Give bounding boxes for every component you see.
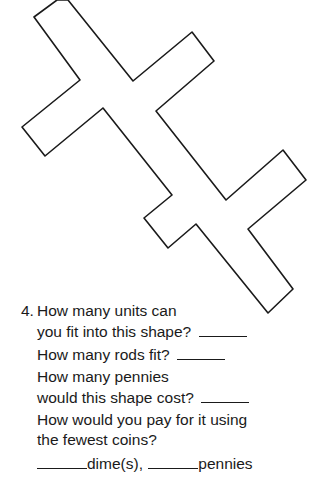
pennies-cost-answer-blank[interactable] bbox=[201, 388, 249, 403]
question-line-5-text: would this shape cost? bbox=[37, 389, 194, 406]
question-line-4: How many pennies bbox=[37, 368, 169, 386]
pennies-label: pennies bbox=[198, 455, 252, 472]
shape-figure bbox=[0, 0, 310, 320]
rods-answer-blank[interactable] bbox=[177, 345, 225, 360]
question-line-7: the fewest coins? bbox=[37, 431, 157, 449]
shape-outline bbox=[22, 0, 306, 313]
question-line-6: How would you pay for it using bbox=[37, 411, 247, 429]
question-line-3-text: How many rods fit? bbox=[37, 346, 170, 363]
question-line-3: How many rods fit? bbox=[37, 345, 225, 364]
question-line-8: dime(s), pennies bbox=[37, 454, 253, 473]
question-line-2-text: you fit into this shape? bbox=[37, 323, 191, 340]
question-line-5: would this shape cost? bbox=[37, 388, 249, 407]
question-number: 4. bbox=[21, 302, 34, 320]
pennies-answer-blank[interactable] bbox=[148, 454, 198, 469]
question-line-2: you fit into this shape? bbox=[37, 322, 247, 341]
units-answer-blank[interactable] bbox=[199, 322, 247, 337]
question-line-1: How many units can bbox=[37, 302, 177, 320]
dimes-label: dime(s), bbox=[87, 455, 143, 472]
dimes-answer-blank[interactable] bbox=[37, 454, 87, 469]
